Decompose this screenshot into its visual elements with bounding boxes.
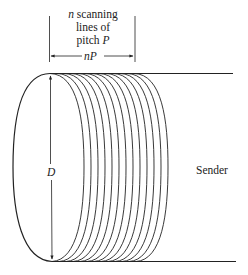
sender-label: Sender xyxy=(196,164,228,176)
np-dimension-label: nP xyxy=(83,50,98,62)
diameter-arrow-down xyxy=(52,180,53,259)
diameter-label: D xyxy=(46,166,56,178)
p-variable: P xyxy=(102,34,109,46)
scanning-lines-label: n scanning lines of pitch P xyxy=(55,8,131,47)
lines-of-text: lines of xyxy=(55,21,131,34)
pitch-text: pitch xyxy=(77,34,103,46)
scanning-lines xyxy=(50,74,168,262)
scanning-text: scanning xyxy=(74,8,118,20)
